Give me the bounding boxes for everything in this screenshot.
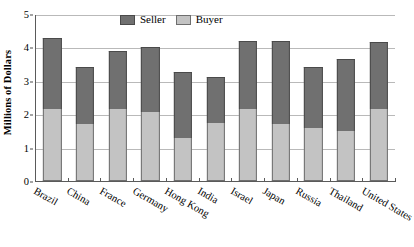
x-axis-category-label: United States [359,186,413,223]
x-tick-mark [297,178,298,182]
bar-stack[interactable] [304,67,322,181]
bar-stack[interactable] [206,77,224,181]
y-axis-title-text: Millions of Dollars [3,50,14,135]
x-axis-category-label: Germany [130,186,169,215]
bar-segment-seller[interactable] [43,38,61,109]
bar-segment-buyer[interactable] [76,124,94,181]
plot-area [35,15,395,182]
x-tick-mark [100,178,101,182]
x-tick-mark [35,178,36,182]
bar-segment-seller[interactable] [370,42,388,109]
y-tick-label: 1 [24,143,29,154]
bar-segment-buyer[interactable] [337,131,355,181]
x-tick-mark [166,178,167,182]
bar-stack[interactable] [370,42,388,181]
legend-swatch-buyer-icon [176,15,191,25]
bar-segment-buyer[interactable] [206,123,224,181]
x-axis-category-label: Russia [294,186,324,209]
bar-stack[interactable] [272,41,290,181]
bar-slot [362,15,395,181]
x-tick-mark [231,178,232,182]
bar-segment-buyer[interactable] [174,138,192,181]
y-tick-mark [30,148,33,149]
bar-stack[interactable] [239,41,257,181]
legend-swatch-seller-icon [120,15,135,25]
bar-stack[interactable] [43,38,61,181]
y-tick-mark [30,182,33,183]
bar-segment-buyer[interactable] [239,109,257,181]
bar-slot [330,15,363,181]
bar-segment-buyer[interactable] [43,109,61,181]
x-tick-mark [330,178,331,182]
x-tick-mark [199,178,200,182]
y-tick-mark [30,115,33,116]
bars-container [36,15,395,181]
legend-label-buyer: Buyer [196,14,223,25]
bar-slot [264,15,297,181]
y-tick-label: 3 [24,77,29,88]
legend-item-seller: Seller [120,14,166,25]
bar-segment-seller[interactable] [76,67,94,124]
bar-segment-seller[interactable] [174,72,192,137]
x-axis-labels: BrazilChinaFranceGermanyHong KongIndiaIs… [35,182,395,247]
bar-segment-seller[interactable] [337,59,355,131]
y-tick-label: 4 [24,43,29,54]
x-tick-mark [264,178,265,182]
bar-segment-buyer[interactable] [141,112,159,181]
bar-stack[interactable] [337,59,355,181]
bar-slot [101,15,134,181]
bar-slot [297,15,330,181]
bar-segment-seller[interactable] [141,47,159,111]
x-axis-category-label: Japan [261,186,287,207]
bar-segment-seller[interactable] [108,51,126,109]
bar-slot [199,15,232,181]
x-tick-mark [395,178,396,182]
bar-stack[interactable] [108,51,126,181]
bar-slot [36,15,69,181]
bar-segment-seller[interactable] [304,67,322,127]
bar-segment-buyer[interactable] [370,109,388,181]
bar-segment-buyer[interactable] [272,124,290,181]
legend-item-buyer: Buyer [176,14,223,25]
bar-slot [134,15,167,181]
x-axis-category-label: China [65,186,92,208]
y-tick-mark [30,81,33,82]
bar-segment-seller[interactable] [206,77,224,122]
bar-slot [69,15,102,181]
bar-segment-buyer[interactable] [108,109,126,181]
y-tick-mark [30,15,33,16]
x-tick-mark [68,178,69,182]
bar-slot [167,15,200,181]
bar-stack[interactable] [76,67,94,181]
y-tick-label: 2 [24,110,29,121]
bar-segment-seller[interactable] [272,41,290,125]
y-tick-mark [30,48,33,49]
bar-stack[interactable] [141,47,159,181]
bar-stack[interactable] [174,72,192,181]
legend-label-seller: Seller [140,14,166,25]
bar-slot [232,15,265,181]
y-tick-label: 0 [24,177,29,188]
x-axis-category-label: Brazil [32,186,59,208]
x-tick-mark [133,178,134,182]
x-axis-category-label: Israel [228,186,253,207]
bar-segment-buyer[interactable] [304,128,322,181]
y-axis-title: Millions of Dollars [0,0,16,185]
x-axis-category-label: Thailand [327,186,365,214]
y-tick-label: 5 [24,10,29,21]
bar-segment-seller[interactable] [239,41,257,109]
x-axis-category-label: France [98,186,128,209]
chart-legend: Seller Buyer [120,14,223,25]
x-tick-mark [362,178,363,182]
y-axis-ticks: 012345 [16,8,32,189]
